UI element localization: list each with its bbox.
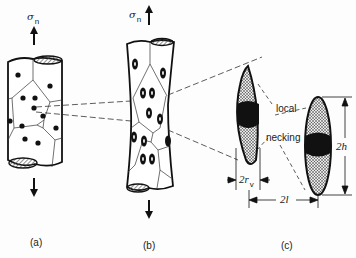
- panel-label-c: (c): [281, 241, 293, 251]
- void-right: [305, 97, 331, 195]
- void-growth-diagram: σn σn local necking 2h 2rv 2l (a) (b) (c…: [0, 0, 356, 258]
- panel-b-specimen: [127, 5, 174, 219]
- label-2l: 2l: [280, 194, 289, 205]
- void-left: [237, 66, 259, 164]
- diagram-drawing: [0, 0, 356, 258]
- stress-label-b: σn: [129, 10, 141, 20]
- panel-label-a: (a): [30, 238, 42, 248]
- label-local: local: [276, 104, 297, 114]
- panel-label-b: (b): [143, 241, 155, 251]
- tensile-arrow-down-icon: [30, 178, 38, 197]
- stress-label-a: σn: [27, 12, 39, 22]
- tensile-arrow-down-icon: [145, 200, 153, 219]
- label-2h: 2h: [336, 141, 347, 152]
- panel-a-specimen: [7, 26, 62, 197]
- label-2rv: 2rv: [239, 174, 254, 185]
- label-necking: necking: [266, 133, 300, 143]
- tensile-arrow-up-icon: [30, 26, 38, 45]
- tensile-arrow-up-icon: [145, 5, 153, 25]
